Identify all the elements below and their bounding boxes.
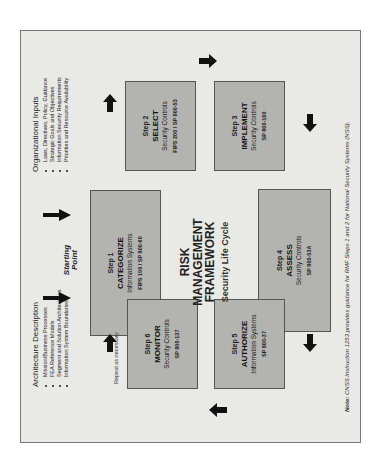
elbow-arrow-left-icon: [43, 286, 73, 310]
step-name: MONITOR: [153, 325, 163, 363]
step-name: AUTHORIZE: [240, 321, 250, 368]
starting-point-label: Starting Point: [63, 236, 80, 284]
center-title: RISK MANAGEMENT FRAMEWORK: [179, 202, 217, 322]
note: Note: CNSS Instruction 1253 provides gui…: [344, 122, 350, 412]
step-subtitle: Information Systems: [126, 233, 134, 292]
step-subtitle: Security Controls: [250, 101, 258, 151]
step-name: SELECT: [151, 110, 161, 142]
step-reference: FIPS 200 / SP 800-53: [172, 99, 179, 152]
step-name: IMPLEMENT: [240, 102, 250, 149]
step-subtitle: Security Controls: [161, 101, 169, 151]
step-reference: SP 800-37: [261, 331, 268, 357]
note-text: CNSS Instruction 1253 provides guidance …: [344, 122, 350, 395]
organizational-inputs: Organizational Inputs Laws, Directives, …: [31, 32, 70, 172]
step-reference: FIPS 199 / SP 800-60: [137, 236, 144, 289]
step-reference: SP 800-53A: [306, 246, 313, 276]
step-3-implement-box[interactable]: Step 3 IMPLEMENT Security Controls SP 80…: [214, 81, 285, 171]
list-item: Strategic Goals and Objectives: [49, 32, 56, 162]
organizational-inputs-list: Laws, Directives, Policy, Guidance Strat…: [42, 32, 70, 172]
step-number: Step 6: [144, 334, 153, 355]
step-reference: SP 800-160: [261, 112, 268, 141]
center-subtitle: Security Life Cycle: [220, 202, 230, 322]
step-subtitle: Security Controls: [295, 236, 303, 286]
arrow-down-icon: [199, 54, 217, 68]
step-name: ASSESS: [285, 244, 295, 276]
step-subtitle: Security Controls: [163, 319, 171, 369]
step-subtitle: Information Systems: [250, 314, 258, 373]
step-number: Step 4: [276, 250, 285, 271]
step-number: Step 2: [142, 116, 151, 137]
elbow-arrow-right-icon: [43, 203, 73, 227]
step-reference: SP 800-137: [174, 330, 181, 359]
step-number: Step 3: [231, 116, 240, 137]
center-title-block: RISK MANAGEMENT FRAMEWORK Security Life …: [179, 202, 230, 322]
center-title-line3: FRAMEWORK: [204, 202, 217, 322]
list-item: Priorities and Resource Availability: [63, 32, 70, 162]
repeat-label: Repeat as necessary: [113, 332, 119, 384]
list-item: Mission/Business Processes: [42, 247, 49, 377]
note-label: Note:: [344, 397, 350, 412]
organizational-inputs-title: Organizational Inputs: [31, 32, 40, 172]
step-2-select-box[interactable]: Step 2 SELECT Security Controls FIPS 200…: [125, 81, 196, 171]
list-item: Information Security Requirements: [56, 32, 63, 162]
step-name: CATEGORIZE: [116, 237, 126, 289]
starting-point-line2: Point: [71, 236, 79, 284]
arrow-left-icon: [303, 114, 317, 132]
arrow-left-icon: [303, 334, 317, 352]
step-number: Step 5: [231, 334, 240, 355]
list-item: Laws, Directives, Policy, Guidance: [42, 32, 49, 162]
rmf-diagram: Organizational Inputs Laws, Directives, …: [20, 30, 361, 443]
list-item: FEA Reference Models: [49, 247, 56, 377]
center-title-line1: RISK: [179, 202, 192, 322]
step-number: Step 1: [107, 253, 116, 274]
architecture-description-title: Architecture Description: [31, 247, 40, 387]
arrow-right-icon: [103, 94, 117, 112]
arrow-up-icon: [209, 403, 227, 417]
